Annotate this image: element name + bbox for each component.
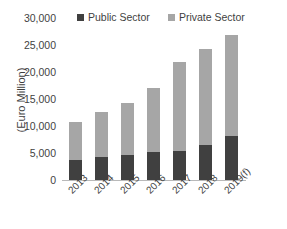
y-axis-tick-label: 0 xyxy=(10,175,56,186)
plot-area xyxy=(62,18,244,180)
y-axis-ticks: 05,00010,00015,00020,00025,00030,000 xyxy=(8,0,56,198)
bar-segment-private-sector[interactable] xyxy=(95,112,108,157)
x-axis-ticks: 2013201420152016201720182019(f) xyxy=(62,182,244,228)
y-axis-tick-label: 25,000 xyxy=(10,40,56,51)
y-axis-tick-label: 5,000 xyxy=(10,148,56,159)
bar-segment-private-sector[interactable] xyxy=(121,103,134,155)
bar-segment-private-sector[interactable] xyxy=(173,62,186,151)
stacked-bar-chart: Public Sector Private Sector (Euro Milli… xyxy=(0,0,287,229)
bar-group xyxy=(62,18,244,180)
bar-column[interactable] xyxy=(95,18,108,180)
bar-column[interactable] xyxy=(225,18,238,180)
bar-segment-private-sector[interactable] xyxy=(147,88,160,152)
bar-segment-private-sector[interactable] xyxy=(225,35,238,137)
y-axis-tick-label: 10,000 xyxy=(10,121,56,132)
y-axis-tick-label: 30,000 xyxy=(10,13,56,24)
bar-column[interactable] xyxy=(199,18,212,180)
bar-column[interactable] xyxy=(173,18,186,180)
bar-segment-private-sector[interactable] xyxy=(199,49,212,145)
bar-column[interactable] xyxy=(69,18,82,180)
y-axis-tick-label: 15,000 xyxy=(10,94,56,105)
bar-column[interactable] xyxy=(121,18,134,180)
bar-segment-private-sector[interactable] xyxy=(69,122,82,160)
y-axis-tick-label: 20,000 xyxy=(10,67,56,78)
bar-column[interactable] xyxy=(147,18,160,180)
